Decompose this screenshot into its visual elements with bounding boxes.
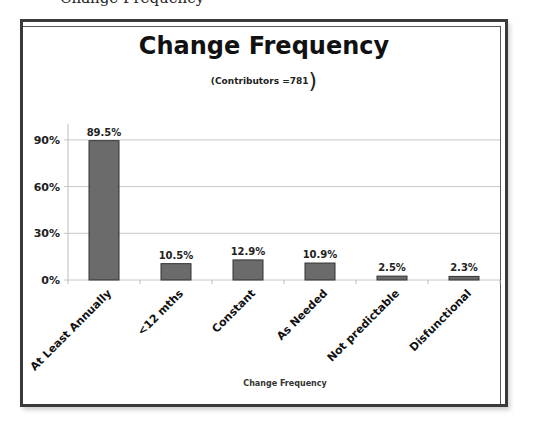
data-label: 10.9% bbox=[303, 249, 338, 260]
bar bbox=[305, 263, 335, 280]
data-label: 10.5% bbox=[159, 250, 194, 261]
x-axis-title: Change Frequency bbox=[243, 379, 327, 388]
bar bbox=[89, 141, 119, 280]
category-label: Disfunctional bbox=[407, 287, 474, 354]
category-label: Constant bbox=[209, 287, 258, 336]
bar bbox=[449, 276, 479, 280]
y-tick-label: 0% bbox=[41, 274, 60, 287]
data-label: 2.5% bbox=[378, 262, 406, 273]
category-label: <12 mths bbox=[135, 287, 187, 339]
bar bbox=[233, 260, 263, 280]
bar bbox=[377, 276, 407, 280]
bar bbox=[161, 264, 191, 280]
category-label: Not predictable bbox=[325, 287, 402, 364]
category-label: As Needed bbox=[274, 287, 330, 343]
data-label: 89.5% bbox=[87, 127, 122, 138]
data-label: 2.3% bbox=[450, 262, 478, 273]
data-label: 12.9% bbox=[231, 246, 266, 257]
y-tick-label: 30% bbox=[34, 227, 60, 240]
y-tick-label: 60% bbox=[34, 181, 60, 194]
bar-chart-plot: 0%30%60%90%89.5%At Least Annually10.5%<1… bbox=[0, 0, 534, 431]
category-label: At Least Annually bbox=[28, 287, 114, 373]
y-tick-label: 90% bbox=[34, 134, 60, 147]
